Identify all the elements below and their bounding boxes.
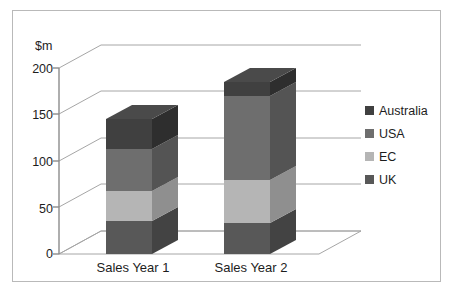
legend-swatch-usa — [365, 129, 374, 138]
gridline-50 — [59, 184, 361, 207]
bar1-segment-uk-front — [106, 221, 152, 254]
legend-item-uk[interactable]: UK — [365, 168, 455, 191]
legend-label-uk: UK — [379, 173, 396, 187]
bar2-segment-uk-front — [224, 223, 270, 254]
legend-swatch-australia — [365, 106, 374, 115]
bar1-segment-usa-front — [106, 149, 152, 191]
chart-frame: $m 200 150 100 50 0 Sales Year 1 Sales Y… — [12, 10, 441, 282]
bar2-segment-usa-side — [270, 82, 296, 180]
legend-swatch-uk — [365, 175, 374, 184]
bar2-segment-australia-front — [224, 82, 270, 96]
legend-label-australia: Australia — [379, 104, 428, 118]
gridline-150 — [59, 91, 361, 114]
floor-plane — [59, 231, 361, 254]
bar-sales-year-2[interactable] — [224, 68, 296, 254]
legend-swatch-ec — [365, 152, 374, 161]
gridline-100 — [59, 138, 361, 161]
gridlines — [59, 45, 361, 254]
legend-label-ec: EC — [379, 150, 396, 164]
y-axis-ticks — [53, 68, 59, 254]
legend-item-ec[interactable]: EC — [365, 145, 455, 168]
bar1-segment-ec-front — [106, 191, 152, 221]
bar2-segment-ec-front — [224, 180, 270, 223]
legend-item-australia[interactable]: Australia — [365, 99, 455, 122]
gridline-200 — [59, 45, 361, 68]
chart-legend: Australia USA EC UK — [365, 99, 455, 191]
bar-sales-year-1[interactable] — [106, 105, 178, 254]
legend-item-usa[interactable]: USA — [365, 122, 455, 145]
bar2-segment-usa-front — [224, 96, 270, 180]
bar1-segment-australia-front — [106, 119, 152, 149]
legend-label-usa: USA — [379, 127, 405, 141]
